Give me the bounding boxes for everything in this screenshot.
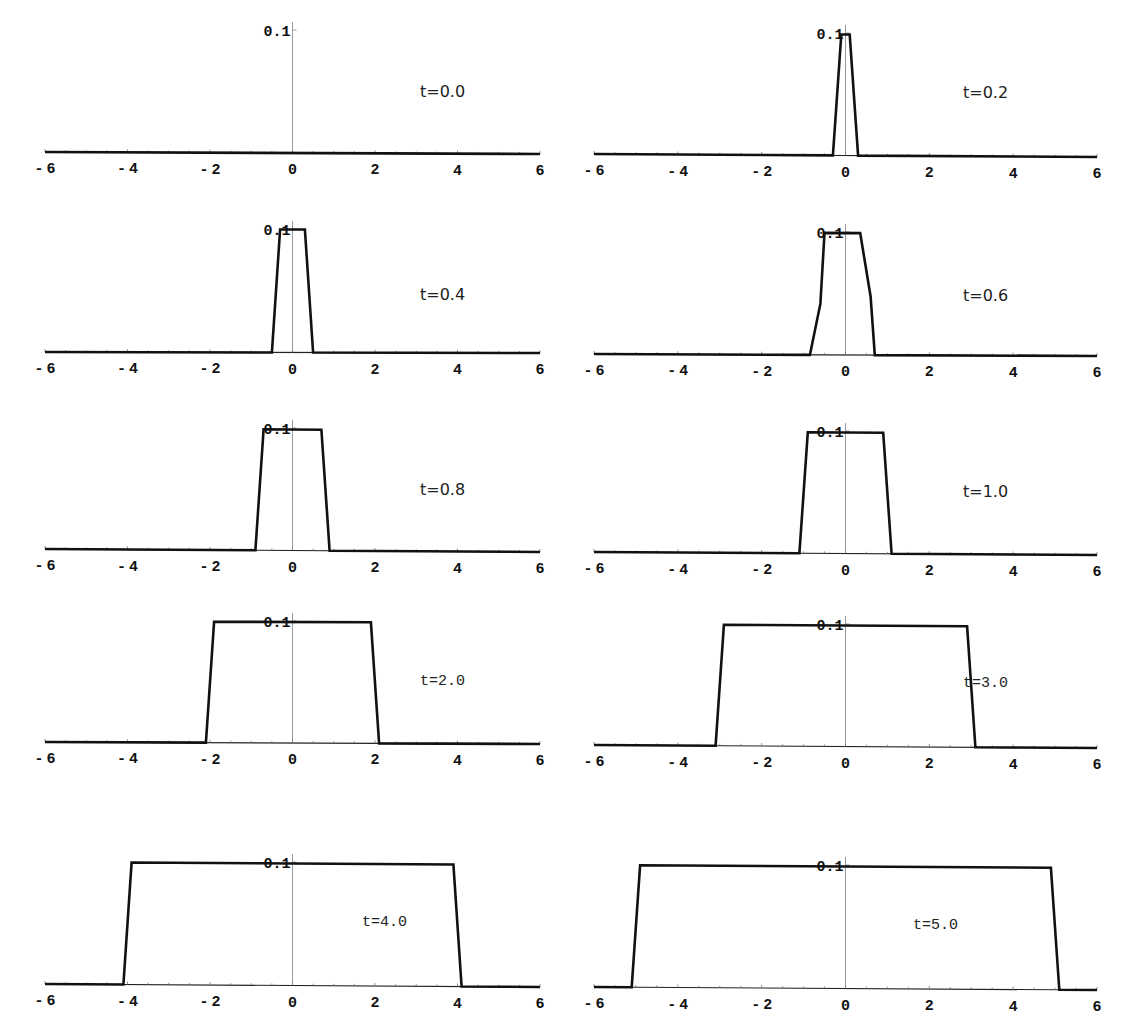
x-tick-label: - 6: [583, 363, 604, 380]
time-annotation: t=3.0: [963, 675, 1008, 692]
x-tick-label: 0: [288, 995, 297, 1012]
data-curve: [45, 152, 540, 154]
x-tick-label: 4: [1009, 365, 1018, 382]
x-tick-label: 6: [535, 753, 544, 770]
time-annotation: t=0.4: [420, 285, 465, 304]
x-tick-label: 6: [1092, 999, 1101, 1016]
x-tick-label: 4: [1009, 166, 1018, 183]
x-tick-label: - 2: [199, 559, 220, 576]
x-tick-label: 4: [453, 996, 462, 1013]
x-tick-label: - 2: [199, 162, 220, 179]
x-tick-label: - 2: [199, 752, 220, 769]
x-tick-label: 6: [1092, 365, 1101, 382]
x-tick-label: 0: [841, 165, 850, 182]
x-tick-label: 6: [1092, 564, 1101, 581]
x-tick-label: - 4: [667, 363, 688, 380]
x-tick-label: - 6: [34, 751, 55, 768]
x-tick-label: 0: [288, 162, 297, 179]
x-tick-label: - 6: [34, 361, 55, 378]
x-tick-label: - 4: [667, 755, 688, 772]
x-tick-label: 2: [370, 560, 379, 577]
x-tick-label: 6: [1092, 166, 1101, 183]
y-tick-label: 0.1: [816, 226, 843, 243]
x-tick-label: - 2: [751, 755, 772, 772]
x-tick-label: 6: [535, 561, 544, 578]
x-tick-label: - 6: [583, 754, 604, 771]
x-tick-label: 2: [925, 165, 934, 182]
figure-grid: - 6- 4- 202460.1t=0.0- 6- 4- 202460.1t=0…: [0, 0, 1127, 1019]
x-tick-label: 4: [453, 362, 462, 379]
x-tick-label: 6: [1092, 757, 1101, 774]
x-tick-label: 2: [925, 364, 934, 381]
x-tick-label: 6: [535, 163, 544, 180]
time-annotation: t=0.0: [420, 82, 465, 101]
x-tick-label: 2: [370, 162, 379, 179]
x-tick-label: - 4: [117, 994, 138, 1011]
time-annotation: t=5.0: [913, 917, 958, 934]
plot-panel: - 6- 4- 202460.1t=0.4: [34, 221, 544, 379]
x-tick-label: 2: [370, 752, 379, 769]
x-tick-label: 0: [841, 998, 850, 1015]
plots-svg: - 6- 4- 202460.1t=0.0- 6- 4- 202460.1t=0…: [0, 0, 1127, 1019]
x-tick-label: - 6: [583, 996, 604, 1013]
x-tick-label: 0: [288, 362, 297, 379]
time-annotation: t=2.0: [420, 673, 465, 690]
plot-panel: - 6- 4- 202460.1t=0.2: [583, 25, 1101, 183]
x-tick-label: 4: [1009, 564, 1018, 581]
x-tick-label: 4: [453, 561, 462, 578]
y-tick-label: 0.1: [263, 223, 290, 240]
x-tick-label: 2: [925, 998, 934, 1015]
x-tick-label: - 2: [751, 562, 772, 579]
y-tick-label: 0.1: [263, 24, 290, 41]
plot-panel: - 6- 4- 202460.1t=3.0: [583, 616, 1101, 774]
x-tick-label: 0: [288, 752, 297, 769]
plot-panel: - 6- 4- 202460.1t=4.0: [34, 854, 544, 1013]
x-tick-label: 0: [288, 560, 297, 577]
plot-panel: - 6- 4- 202460.1t=5.0: [583, 857, 1101, 1016]
x-tick-label: - 2: [199, 361, 220, 378]
plot-panel: - 6- 4- 202460.1t=0.6: [583, 224, 1101, 382]
x-tick-label: - 6: [34, 993, 55, 1010]
y-tick-label: 0.1: [263, 615, 290, 632]
x-tick-label: 4: [1009, 999, 1018, 1016]
x-tick-label: - 4: [117, 161, 138, 178]
x-tick-label: - 2: [751, 164, 772, 181]
x-tick-label: 0: [841, 563, 850, 580]
x-tick-label: 2: [370, 362, 379, 379]
x-tick-label: - 6: [34, 161, 55, 178]
x-tick-label: - 4: [667, 164, 688, 181]
plot-panel: - 6- 4- 202460.1t=0.0: [34, 22, 544, 180]
plot-panel: - 6- 4- 202460.1t=1.0: [583, 423, 1101, 581]
y-tick-label: 0.1: [816, 27, 843, 44]
x-tick-label: 4: [453, 753, 462, 770]
x-tick-label: 6: [535, 362, 544, 379]
plot-panel: - 6- 4- 202460.1t=0.8: [34, 420, 544, 578]
x-tick-label: 2: [370, 995, 379, 1012]
x-tick-label: - 6: [583, 561, 604, 578]
x-tick-label: 4: [453, 163, 462, 180]
time-annotation: t=1.0: [963, 482, 1008, 501]
x-tick-label: - 6: [34, 558, 55, 575]
time-annotation: t=4.0: [362, 914, 407, 931]
time-annotation: t=0.2: [963, 83, 1008, 102]
time-annotation: t=0.6: [963, 286, 1008, 305]
x-tick-label: - 2: [751, 364, 772, 381]
x-tick-label: - 4: [667, 562, 688, 579]
plot-panel: - 6- 4- 202460.1t=2.0: [34, 613, 544, 770]
x-tick-label: 2: [925, 563, 934, 580]
x-tick-label: - 6: [583, 163, 604, 180]
time-annotation: t=0.8: [420, 480, 465, 499]
x-tick-label: 2: [925, 756, 934, 773]
x-tick-label: - 2: [199, 994, 220, 1011]
x-tick-label: - 4: [667, 997, 688, 1014]
x-tick-label: 0: [841, 364, 850, 381]
x-tick-label: - 2: [751, 997, 772, 1014]
x-tick-label: - 4: [117, 559, 138, 576]
x-tick-label: - 4: [117, 751, 138, 768]
x-tick-label: 6: [535, 996, 544, 1013]
x-tick-label: 4: [1009, 757, 1018, 774]
x-tick-label: 0: [841, 756, 850, 773]
x-tick-label: - 4: [117, 361, 138, 378]
